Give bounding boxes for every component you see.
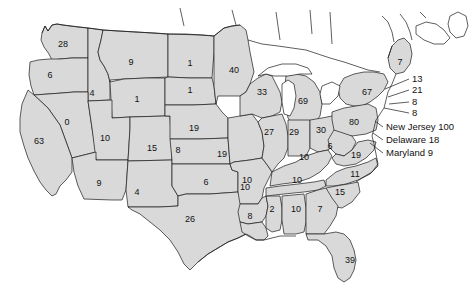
state-value-AR: 10: [242, 176, 252, 185]
state-shape-ND[interactable]: [168, 34, 214, 78]
state-value-LA: 8: [247, 212, 252, 221]
state-shape-OR[interactable]: [29, 58, 88, 95]
state-value-ME: 7: [397, 58, 402, 67]
state-value-AL: 10: [291, 205, 301, 214]
state-value-IL: 27: [264, 128, 274, 137]
callout-label-vermont-new-hampshire: 13: [412, 74, 423, 84]
state-value-TX: 26: [185, 215, 195, 224]
state-value-MN: 40: [229, 66, 239, 75]
state-value-IA: 19: [217, 150, 227, 159]
callout-label-maryland: Maryland 9: [386, 148, 433, 158]
state-value-NY: 67: [362, 88, 372, 97]
state-value-FL: 39: [345, 256, 355, 265]
state-value-WA: 28: [58, 40, 68, 49]
lake-huron-erie: [320, 82, 340, 104]
state-value-VA: 19: [351, 151, 361, 160]
state-value-SD: 1: [187, 86, 192, 95]
state-shape-MS[interactable]: [266, 196, 282, 232]
callout-label-delaware: Delaware 18: [386, 135, 439, 145]
state-value-UT: 10: [100, 134, 110, 143]
state-value-IN: 29: [289, 128, 299, 137]
state-value-WI: 33: [257, 88, 267, 97]
state-value-MT: 9: [128, 58, 133, 67]
state-value-OH: 30: [316, 126, 326, 135]
state-value-KY: 10: [299, 153, 309, 162]
us-value-map: 2864914011063101519193369272930806778109…: [0, 0, 474, 296]
leader-line-delaware: [373, 133, 383, 140]
state-value-PA: 80: [349, 118, 359, 127]
leader-line-connecticut: [384, 108, 409, 113]
state-value-OR: 6: [47, 71, 52, 80]
state-value-NE: 19: [189, 124, 199, 133]
state-value-CA: 63: [34, 137, 44, 146]
state-shape-NM[interactable]: [126, 160, 178, 207]
callout-label-massachusetts: 21: [412, 85, 423, 95]
state-value-OK: 6: [203, 178, 208, 187]
canada-ontario-outline: [248, 40, 380, 72]
state-shape-NE[interactable]: [165, 104, 228, 139]
state-value-WV: 6: [327, 142, 332, 151]
state-value-ID: 4: [89, 89, 94, 98]
state-value-MS: 2: [269, 205, 274, 214]
st-lawrence-outline: [382, 12, 426, 42]
callout-label-connecticut: 8: [412, 108, 417, 118]
state-shape-AL[interactable]: [282, 194, 306, 234]
nova-scotia-outline: [416, 22, 450, 44]
state-value-SC: 15: [335, 188, 345, 197]
callout-label-rhode-island: 8: [412, 97, 417, 107]
leader-line-vermont-new-hampshire: [385, 79, 409, 89]
leader-line-rhode-island: [389, 102, 409, 104]
state-value-ND: 1: [187, 59, 192, 68]
state-value-KS: 8: [175, 146, 180, 155]
state-value-MI: 69: [298, 97, 308, 106]
state-value-NM: 4: [134, 188, 139, 197]
callout-label-new-jersey: New Jersey 100: [386, 122, 454, 132]
leader-line-massachusetts: [388, 90, 409, 97]
newfoundland-outline: [448, 12, 468, 38]
state-shape-LA[interactable]: [240, 222, 268, 240]
lake-superior: [258, 64, 312, 76]
state-value-NV: 0: [64, 118, 69, 127]
state-value-WY: 1: [134, 95, 139, 104]
state-value-AZ: 9: [96, 179, 101, 188]
state-value-GA: 7: [317, 205, 322, 214]
state-value-TN: 10: [292, 176, 302, 185]
state-shape-CO[interactable]: [128, 116, 172, 161]
state-value-NC: 11: [350, 170, 359, 179]
state-value-CO: 15: [147, 144, 157, 153]
